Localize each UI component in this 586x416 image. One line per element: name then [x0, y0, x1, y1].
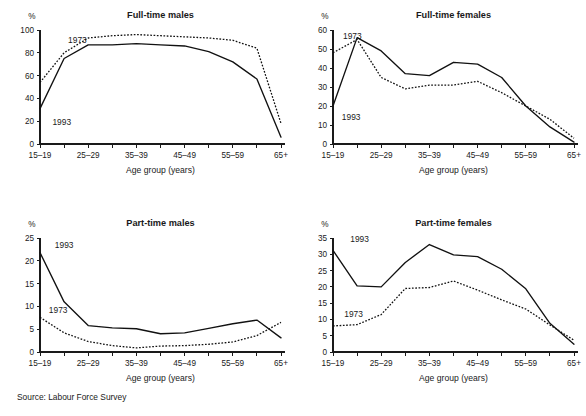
- chart-svg-full-time-males: Full-time males%02040608010015–1925–2935…: [0, 4, 293, 194]
- y-tick-label: 25: [318, 267, 328, 276]
- chart-panel-full-time-males: Full-time males%02040608010015–1925–2935…: [0, 4, 293, 194]
- y-tick-label: 0: [29, 348, 34, 357]
- y-tick-label: 15: [25, 280, 35, 289]
- chart-title-part-time-females: Part-time females: [415, 218, 492, 228]
- x-axis-title: Age group (years): [126, 373, 195, 383]
- chart-title-full-time-females: Full-time females: [416, 10, 491, 20]
- chart-title-full-time-males: Full-time males: [127, 10, 194, 20]
- y-tick-label: 0: [322, 140, 327, 149]
- x-tick-label: 15–19: [322, 359, 345, 368]
- chart-svg-full-time-females: Full-time females%010203040506015–1925–2…: [293, 4, 586, 194]
- series-label-1993: 1993: [55, 240, 74, 250]
- x-tick-label: 35–39: [418, 151, 441, 160]
- y-tick-label: 20: [25, 257, 35, 266]
- y-tick-label: 10: [318, 121, 328, 130]
- chart-title-part-time-males: Part-time males: [126, 218, 194, 228]
- series-line-1973: [40, 35, 281, 124]
- y-tick-label: 20: [25, 117, 35, 126]
- x-axis-title: Age group (years): [126, 165, 195, 175]
- series-line-1993: [40, 44, 281, 137]
- x-tick-label: 65+: [567, 151, 581, 160]
- chart-panel-part-time-females: Part-time females%0510152025303515–1925–…: [293, 212, 586, 402]
- y-axis-unit-label: %: [28, 12, 35, 21]
- y-tick-label: 100: [20, 26, 34, 35]
- y-tick-label: 0: [322, 348, 327, 357]
- y-tick-label: 40: [25, 94, 35, 103]
- x-tick-label: 35–39: [125, 359, 148, 368]
- y-tick-label: 25: [25, 234, 35, 243]
- x-tick-label: 25–29: [77, 151, 100, 160]
- series-label-1973: 1973: [68, 35, 87, 45]
- x-tick-label: 55–59: [514, 359, 537, 368]
- chart-panel-full-time-females: Full-time females%010203040506015–1925–2…: [293, 4, 586, 194]
- y-tick-label: 80: [25, 49, 35, 58]
- x-tick-label: 45–49: [173, 359, 196, 368]
- y-tick-label: 30: [318, 83, 328, 92]
- series-line-1993: [333, 245, 574, 345]
- y-tick-label: 30: [318, 250, 328, 259]
- x-tick-label: 15–19: [29, 359, 52, 368]
- series-label-1973: 1973: [344, 309, 363, 319]
- series-line-1993: [333, 38, 574, 143]
- x-tick-label: 45–49: [173, 151, 196, 160]
- series-label-1993: 1993: [350, 234, 369, 244]
- x-axis-title: Age group (years): [419, 165, 488, 175]
- x-tick-label: 55–59: [514, 151, 537, 160]
- x-tick-label: 25–29: [370, 359, 393, 368]
- series-line-1993: [40, 253, 281, 338]
- y-tick-label: 10: [318, 315, 328, 324]
- y-tick-label: 0: [29, 140, 34, 149]
- y-tick-label: 35: [318, 234, 328, 243]
- x-tick-label: 15–19: [29, 151, 52, 160]
- y-tick-label: 15: [318, 299, 328, 308]
- x-tick-label: 65+: [567, 359, 581, 368]
- x-tick-label: 35–39: [125, 151, 148, 160]
- figure-panel-grid: Full-time males%02040608010015–1925–2935…: [0, 0, 586, 416]
- x-tick-label: 55–59: [221, 151, 244, 160]
- y-tick-label: 10: [25, 302, 35, 311]
- x-tick-label: 35–39: [418, 359, 441, 368]
- y-tick-label: 5: [322, 332, 327, 341]
- y-tick-label: 50: [318, 45, 328, 54]
- y-tick-label: 20: [318, 283, 328, 292]
- x-tick-label: 65+: [274, 359, 288, 368]
- y-axis-unit-label: %: [28, 220, 35, 229]
- x-tick-label: 45–49: [466, 359, 489, 368]
- chart-svg-part-time-females: Part-time females%0510152025303515–1925–…: [293, 212, 586, 402]
- x-tick-label: 65+: [274, 151, 288, 160]
- x-tick-label: 25–29: [370, 151, 393, 160]
- x-axis-title: Age group (years): [419, 373, 488, 383]
- y-tick-label: 20: [318, 102, 328, 111]
- source-note: Source: Labour Force Survey: [17, 392, 126, 402]
- x-tick-label: 15–19: [322, 151, 345, 160]
- x-tick-label: 55–59: [221, 359, 244, 368]
- series-line-1973: [333, 281, 574, 340]
- y-axis-unit-label: %: [321, 12, 328, 21]
- series-label-1973: 1973: [49, 305, 68, 315]
- y-axis-unit-label: %: [321, 220, 328, 229]
- series-label-1993: 1993: [52, 117, 71, 127]
- x-tick-label: 25–29: [77, 359, 100, 368]
- y-tick-label: 60: [25, 72, 35, 81]
- y-tick-label: 5: [29, 325, 34, 334]
- chart-svg-part-time-males: Part-time males%051015202515–1925–2935–3…: [0, 212, 293, 402]
- series-line-1973: [333, 40, 574, 139]
- y-tick-label: 60: [318, 26, 328, 35]
- y-tick-label: 40: [318, 64, 328, 73]
- series-label-1993: 1993: [342, 112, 361, 122]
- chart-panel-part-time-males: Part-time males%051015202515–1925–2935–3…: [0, 212, 293, 402]
- x-tick-label: 45–49: [466, 151, 489, 160]
